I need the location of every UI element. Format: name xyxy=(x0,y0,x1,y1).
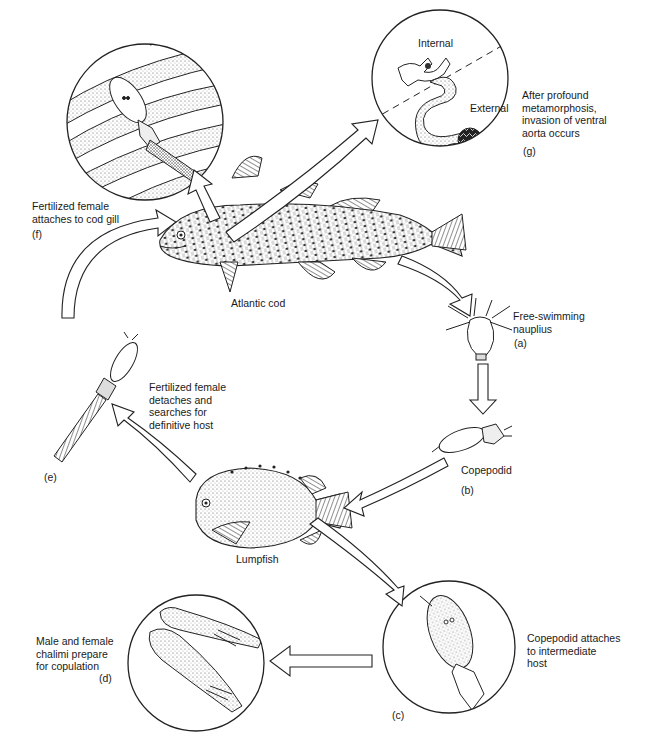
arrow-inset-c-to-d xyxy=(270,646,372,676)
stage-e-label: Fertilized female detaches and searches … xyxy=(149,381,226,431)
arrow-nauplius-to-copepodid xyxy=(470,364,496,414)
lumpfish-label: Lumpfish xyxy=(236,553,279,565)
inset-g-aorta-circle xyxy=(372,10,512,155)
stage-g-label: After profound metamorphosis, invasion o… xyxy=(522,89,607,139)
stage-d-tag: (d) xyxy=(99,672,112,684)
stage-c-label: Copepodid attaches to intermediate host xyxy=(527,632,620,670)
fertilized-female-illustration xyxy=(54,332,143,462)
arrow-cod-to-nauplius xyxy=(398,256,472,316)
stage-e-tag: (e) xyxy=(44,471,57,483)
arrow-lumpfish-to-inset-c xyxy=(310,518,404,606)
stage-a-label: Free-swimming nauplius xyxy=(513,310,585,335)
inset-d-chalimi-circle xyxy=(128,595,264,731)
stage-a-tag: (a) xyxy=(514,337,527,349)
stage-d-label: Male and female chalimi prepare for copu… xyxy=(36,635,114,673)
stage-b-tag: (b) xyxy=(461,484,474,496)
stage-c-tag: (c) xyxy=(392,709,404,721)
copepodid-illustration xyxy=(432,422,512,457)
inset-g-internal-label: Internal xyxy=(418,37,453,49)
stage-g-tag: (g) xyxy=(523,145,536,157)
arrow-copepodid-to-lumpfish xyxy=(344,458,448,516)
atlantic-cod-label: Atlantic cod xyxy=(231,297,285,309)
arrow-female-to-cod xyxy=(62,210,176,318)
cycle-arrows xyxy=(62,120,496,676)
stage-f-label: Fertilized female attaches to cod gill xyxy=(32,200,119,225)
stage-b-label: Copepodid xyxy=(461,464,512,477)
stage-f-tag: (f) xyxy=(32,228,42,240)
inset-g-external-label: External xyxy=(470,102,509,114)
